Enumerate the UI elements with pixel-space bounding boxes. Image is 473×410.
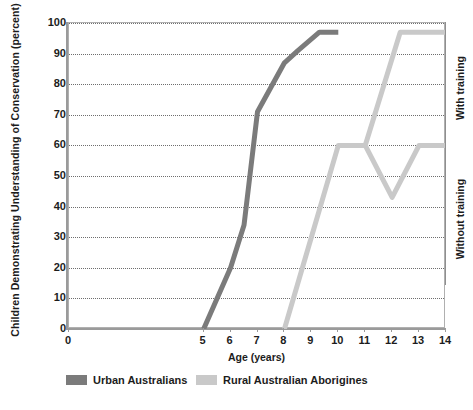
- annotation-1: Without training: [447, 154, 473, 286]
- chart-container: Children Demonstrating Understanding of …: [0, 0, 473, 410]
- y-axis-tick-70: 70: [32, 108, 66, 120]
- x-axis-tickmark-12: [391, 328, 392, 332]
- x-axis-title-text: Age (years): [228, 351, 285, 363]
- annotation-label-1: Without training: [454, 179, 466, 259]
- y-axis-tick-10: 10: [32, 291, 66, 303]
- series-line-2: [338, 145, 446, 197]
- y-axis-tick-90: 90: [32, 47, 66, 59]
- x-axis-tickmark-13: [418, 328, 419, 332]
- y-axis-title: Children Demonstrating Understanding of …: [0, 0, 30, 340]
- y-axis-tick-80: 80: [32, 77, 66, 89]
- series-line-0: [204, 32, 339, 329]
- x-axis-tickmark-8: [283, 328, 284, 332]
- annotation-divider-0: [445, 22, 446, 154]
- plot-area: [68, 22, 445, 328]
- x-axis-tickmark-5: [203, 328, 204, 332]
- legend-item-1[interactable]: Rural Australian Aborigines: [196, 374, 368, 386]
- y-axis-tick-50: 50: [32, 169, 66, 181]
- y-axis-tick-0: 0: [32, 322, 66, 334]
- annotation-0: With training: [447, 22, 473, 154]
- legend-item-0[interactable]: Urban Australians: [66, 374, 187, 386]
- y-axis-tick-40: 40: [32, 200, 66, 212]
- y-axis-title-text: Children Demonstrating Understanding of …: [9, 3, 21, 336]
- x-axis-tick-labels: 0567891011121314: [0, 334, 473, 352]
- plot-inner: [69, 23, 444, 327]
- x-axis-tickmark-14: [445, 328, 446, 332]
- y-axis-tick-20: 20: [32, 261, 66, 273]
- x-axis-tick-14: 14: [428, 334, 462, 346]
- legend-swatch-1: [196, 375, 217, 385]
- legend-label-0: Urban Australians: [93, 374, 187, 386]
- x-axis-tickmark-0: [68, 328, 69, 332]
- legend-label-1: Rural Australian Aborigines: [223, 374, 368, 386]
- series-line-1: [284, 32, 446, 329]
- x-axis-tickmark-11: [364, 328, 365, 332]
- x-axis-tick-0: 0: [51, 334, 85, 346]
- x-axis-title: Age (years): [68, 351, 445, 363]
- y-axis-tick-100: 100: [32, 16, 66, 28]
- series-layer: [69, 23, 446, 329]
- x-axis-tickmark-6: [230, 328, 231, 332]
- annotation-label-0: With training: [454, 56, 466, 120]
- x-axis-tickmark-10: [337, 328, 338, 332]
- x-axis-tickmark-7: [257, 328, 258, 332]
- annotation-divider-1: [445, 154, 446, 286]
- legend: Urban AustraliansRural Australian Aborig…: [0, 372, 473, 392]
- legend-swatch-0: [66, 375, 87, 385]
- y-axis-tick-30: 30: [32, 230, 66, 242]
- y-axis-tick-60: 60: [32, 138, 66, 150]
- x-axis-tickmark-9: [310, 328, 311, 332]
